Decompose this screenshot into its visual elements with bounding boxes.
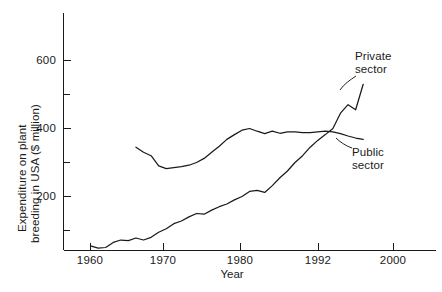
y-axis-title-line-1: Expenditure on plant: [16, 125, 28, 233]
x-axis-ticks: [91, 243, 394, 251]
x-tick-label-1992: 1992: [305, 254, 331, 266]
series-annotation-private-line-2: sector: [355, 63, 392, 76]
series-annotation-public-line-1: Public: [352, 146, 384, 159]
y-axis-ticks: [64, 61, 72, 231]
x-axis-title: Year: [220, 268, 243, 280]
axes-group: [64, 13, 437, 251]
x-tick-label-1980: 1980: [227, 254, 253, 266]
x-tick-label-1970: 1970: [150, 254, 176, 266]
leader-line-public: [336, 138, 352, 148]
series-annotation-public-line-2: sector: [352, 159, 384, 172]
series-annotation-private-sector: Private sector: [355, 50, 392, 75]
leader-line-private: [340, 76, 356, 90]
x-tick-label-2000: 2000: [380, 254, 406, 266]
expenditure-line-chart: 600 400 200 1960 1970 1980 1992 2000 Yea…: [0, 0, 442, 292]
series-line-private-sector: [91, 84, 364, 248]
series-line-public-sector: [136, 129, 363, 169]
series-annotation-private-line-1: Private: [355, 50, 392, 63]
x-tick-label-1960: 1960: [77, 254, 103, 266]
series-annotation-public-sector: Public sector: [352, 146, 384, 171]
data-series-group: [91, 84, 364, 248]
y-axis-title-line-2: breeding in USA ($ million): [29, 104, 41, 243]
y-axis-title: Expenditure on plant breeding in USA ($ …: [2, 0, 42, 292]
